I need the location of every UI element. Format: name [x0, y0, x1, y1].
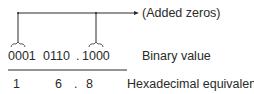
arrowhead-icon	[134, 11, 139, 15]
hex-digit-1: 1	[13, 78, 20, 91]
right-brace	[89, 42, 103, 47]
hex-point: .	[74, 78, 77, 91]
hex-digit-2: 6	[55, 78, 62, 91]
added-zeros-label: (Added zeros)	[142, 7, 221, 20]
binary-group-1: 0001	[8, 50, 36, 63]
hex-label: Hexadecimal equivalent	[127, 78, 254, 91]
left-brace	[11, 42, 25, 47]
hex-digit-3: 8	[86, 78, 93, 91]
binary-group-3: 1000	[82, 50, 110, 63]
binary-point: .	[76, 50, 79, 63]
binary-group-2: 0110	[43, 50, 70, 63]
binary-label: Binary value	[142, 50, 211, 63]
